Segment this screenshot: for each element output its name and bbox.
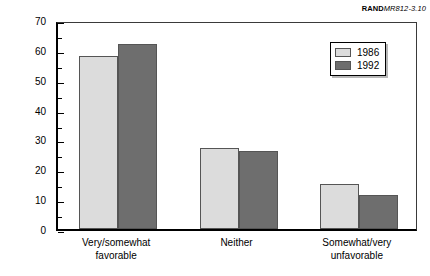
bar-1986-3 — [320, 184, 359, 229]
y-axis-tick-label: 50 — [0, 77, 46, 87]
y-axis-major-tick — [58, 142, 64, 143]
bar-1986-2 — [200, 148, 239, 229]
y-axis-minor-tick — [58, 98, 62, 99]
x-axis-category-label: Very/somewhat favorable — [46, 237, 186, 262]
y-axis-minor-tick — [58, 187, 62, 188]
bar-1992-2 — [239, 151, 278, 229]
y-axis-tick-label: 10 — [0, 196, 46, 206]
y-axis-minor-tick — [58, 128, 62, 129]
rand-brand-text: RAND — [362, 4, 384, 13]
legend-item-1986: 1986 — [335, 46, 379, 59]
document-id-text: MR812-3.10 — [384, 4, 426, 13]
legend-item-1992: 1992 — [335, 59, 379, 72]
y-axis-minor-tick — [58, 38, 62, 39]
y-axis-tick-label: 20 — [0, 166, 46, 176]
y-axis-major-tick — [58, 172, 64, 173]
y-axis-major-tick — [58, 83, 64, 84]
y-axis-major-tick — [58, 53, 64, 54]
legend-label-1986: 1986 — [357, 48, 379, 58]
y-axis-minor-tick — [58, 157, 62, 158]
y-axis-major-tick — [58, 113, 64, 114]
y-axis-tick-label: 70 — [0, 17, 46, 27]
legend-swatch-1986 — [335, 48, 351, 57]
legend-swatch-1992 — [335, 61, 351, 70]
bar-1992-3 — [359, 195, 398, 229]
y-axis-tick-label: 0 — [0, 226, 46, 236]
y-axis-major-tick — [58, 232, 64, 233]
y-axis-minor-tick — [58, 217, 62, 218]
x-axis-category-label: Somewhat/very unfavorable — [287, 237, 427, 262]
y-axis-minor-tick — [58, 68, 62, 69]
bar-1986-1 — [79, 56, 118, 229]
chart-legend: 19861992 — [330, 42, 386, 76]
y-axis-major-tick — [58, 202, 64, 203]
y-axis-tick-label: 60 — [0, 47, 46, 57]
legend-label-1992: 1992 — [357, 61, 379, 71]
bar-1992-1 — [118, 44, 157, 229]
y-axis-tick-label: 30 — [0, 136, 46, 146]
y-axis-major-tick — [58, 23, 64, 24]
x-axis-category-label: Neither — [167, 237, 307, 250]
source-credit: RANDMR812-3.10 — [362, 4, 426, 13]
y-axis-tick-label: 40 — [0, 107, 46, 117]
